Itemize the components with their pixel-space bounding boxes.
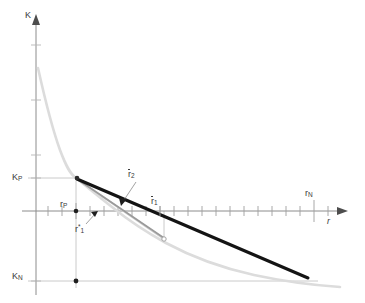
x-axis-label: r <box>327 217 330 226</box>
r1star-subscript: 1 <box>81 227 85 234</box>
r1-bar-label: r1 <box>151 197 158 207</box>
kn-value-label: KN <box>12 272 23 282</box>
y-axis-label: K <box>25 11 31 20</box>
rn-value-label: rN <box>305 189 313 199</box>
rn-subscript: N <box>308 191 313 198</box>
r1-star-label: r*1 <box>75 224 84 235</box>
rp-value-label: rP <box>60 200 67 210</box>
kn-point-marker <box>74 279 79 284</box>
chord-endpoint-marker <box>162 237 166 241</box>
r2-bar-label: r2 <box>128 170 135 180</box>
r1bar-base: r <box>151 197 154 206</box>
axes-group <box>22 22 340 295</box>
kr-plot-svg <box>0 0 365 303</box>
rp-point-marker <box>74 209 79 214</box>
kn-subscript: N <box>18 274 23 281</box>
y-axis-arrowhead <box>32 14 40 25</box>
kp-subscript: P <box>18 175 22 182</box>
kp-point-marker <box>75 176 80 181</box>
tangent-thick-black-line <box>77 179 308 278</box>
r1star-leader-arrow <box>86 211 98 224</box>
x-axis-ticks <box>48 200 328 222</box>
r2bar-subscript: 2 <box>131 172 135 179</box>
figure-canvas: K r KP KN rP rN r*1 r1 r2 <box>0 0 365 303</box>
r2bar-base: r <box>128 170 131 179</box>
r1bar-subscript: 1 <box>154 199 158 206</box>
x-axis-arrowhead <box>337 207 348 215</box>
kp-value-label: KP <box>12 173 22 183</box>
rp-subscript: P <box>63 202 67 209</box>
guide-lines <box>28 178 318 288</box>
hyperbola-curve <box>38 68 340 287</box>
